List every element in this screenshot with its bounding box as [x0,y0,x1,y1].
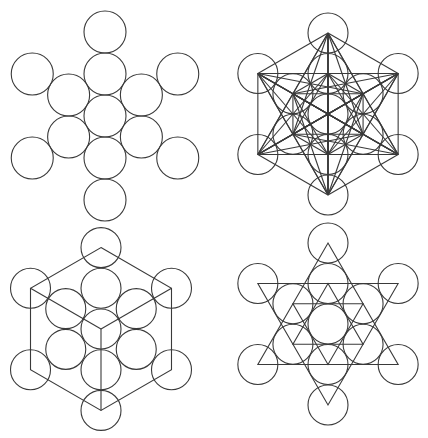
circle [84,53,126,95]
circle [11,137,53,179]
circle [84,95,126,137]
circle [81,268,121,308]
circle [11,53,53,95]
figure-fruit-of-life [11,11,198,221]
sacred-geometry-canvas [0,0,428,438]
edge-line [328,155,398,196]
edge-line [328,33,398,74]
small-triangle-up [293,284,363,345]
circle [157,53,199,95]
circle [46,329,86,369]
circle [48,116,90,158]
circle [120,116,162,158]
edge-line [258,155,328,196]
edge-line [258,33,328,74]
circle [84,11,126,53]
figure-double-star [238,223,418,425]
figure-metatrons-cube [238,13,418,215]
circle [120,74,162,116]
figure-hexagon-cube [11,228,192,431]
circle [84,179,126,221]
circle [116,329,156,369]
small-triangle-down [293,304,363,365]
circle [157,137,199,179]
circle [48,74,90,116]
circle [84,137,126,179]
edge-line [101,288,171,329]
circle [308,304,348,344]
edge-line [31,288,101,329]
